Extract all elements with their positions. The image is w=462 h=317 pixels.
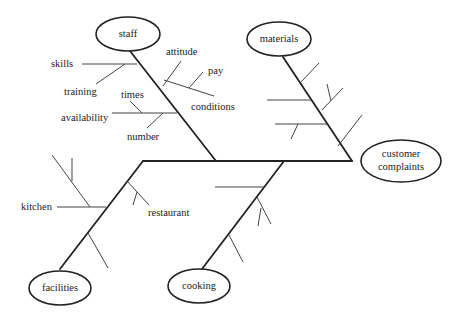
- materials-label: materials: [260, 33, 298, 44]
- effect-label-line2: complaints: [378, 161, 424, 172]
- cause-attitude: attitude: [166, 46, 198, 57]
- cause-pay: pay: [208, 65, 223, 76]
- cause-skills: skills: [51, 58, 73, 69]
- bone-materials: [283, 57, 352, 161]
- cause-training: training: [64, 86, 97, 97]
- cause-restaurant: restaurant: [148, 207, 189, 218]
- cause-kitchen: kitchen: [21, 201, 52, 212]
- cause-conditions: conditions: [191, 101, 235, 112]
- fishbone-diagram: staff materials facilities cooking custo…: [0, 0, 462, 317]
- cause-times: times: [121, 89, 144, 100]
- bone-cooking: [202, 161, 284, 269]
- effect-label-line1: customer: [382, 148, 421, 159]
- cause-availability: availability: [61, 112, 108, 123]
- cause-number: number: [127, 131, 159, 142]
- staff-label: staff: [119, 28, 137, 39]
- cooking-label: cooking: [182, 280, 216, 291]
- facilities-label: facilities: [42, 282, 78, 293]
